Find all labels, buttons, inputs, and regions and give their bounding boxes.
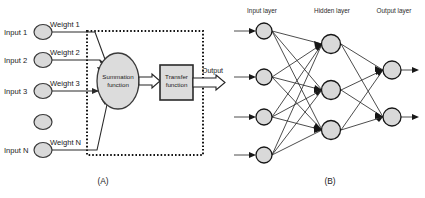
input-layer-node-3[interactable] (256, 109, 272, 125)
summation-function-label-line2: function (107, 81, 129, 88)
output-layer-node-1[interactable] (383, 61, 401, 79)
input-layer-node-4[interactable] (256, 147, 272, 163)
hidden-layer-nodes (322, 35, 341, 140)
neural-network-figure: Input 1 Input 2 Input 3 Input N Weight 1… (0, 0, 425, 198)
weight-label-1: Weight 1 (50, 20, 80, 29)
output-layer-nodes (383, 61, 401, 126)
input-layer-nodes (256, 23, 272, 163)
hidden-layer-node-3[interactable] (322, 121, 341, 140)
input-label-2: Input 2 (4, 56, 27, 65)
network-output-arrows (401, 67, 419, 120)
weight-label-3: Weight 3 (50, 79, 80, 88)
hidden-layer-node-1[interactable] (322, 35, 341, 54)
panel-b-caption: (B) (324, 176, 335, 186)
input-layer-label: Input layer (247, 7, 278, 15)
hidden-layer-label: Hidden layer (314, 7, 351, 15)
input-hidden-connections (272, 31, 322, 155)
input-node-placeholder[interactable] (34, 115, 52, 130)
summation-function-label-line1: Summation (102, 73, 134, 80)
panel-a: Input 1 Input 2 Input 3 Input N Weight 1… (4, 20, 225, 186)
hidden-layer-node-2[interactable] (322, 81, 341, 100)
output-input-arrowheads (375, 66, 383, 122)
network-input-arrows (234, 28, 256, 158)
panel-b: Input layer Hidden layer Output layer (234, 7, 419, 186)
output-label: Output (202, 67, 223, 75)
input-label-n: Input N (4, 146, 28, 155)
transfer-function-label-line2: function (166, 81, 188, 88)
panel-a-caption: (A) (97, 176, 108, 186)
output-layer-node-2[interactable] (383, 108, 401, 126)
input-label-1: Input 1 (4, 28, 27, 37)
input-label-3: Input 3 (4, 87, 27, 96)
input-layer-node-2[interactable] (256, 69, 272, 85)
output-layer-label: Output layer (377, 7, 413, 15)
transfer-function-label-line1: Transfer (165, 73, 188, 80)
summation-to-transfer-arrow (139, 74, 160, 88)
input-layer-node-1[interactable] (256, 23, 272, 39)
weight-label-n: Weight N (50, 138, 81, 147)
weight-label-2: Weight 2 (50, 48, 80, 57)
output-arrow (193, 75, 225, 90)
